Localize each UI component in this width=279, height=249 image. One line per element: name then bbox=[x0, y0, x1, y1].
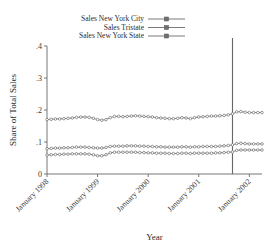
series-marker-1 bbox=[248, 143, 251, 146]
series-marker-1 bbox=[63, 146, 66, 149]
series-marker-1 bbox=[75, 146, 78, 149]
legend-marker-0 bbox=[165, 17, 169, 21]
series-marker-2 bbox=[113, 151, 116, 154]
series-marker-0 bbox=[206, 115, 209, 118]
series-marker-2 bbox=[63, 153, 66, 156]
series-marker-0 bbox=[210, 115, 213, 118]
series-marker-2 bbox=[256, 149, 259, 152]
series-marker-1 bbox=[46, 147, 49, 150]
series-marker-0 bbox=[227, 114, 230, 117]
y-tick-label: .3 bbox=[36, 74, 42, 83]
series-marker-2 bbox=[84, 153, 87, 156]
series-marker-1 bbox=[138, 145, 141, 148]
series-marker-1 bbox=[126, 145, 129, 148]
series-marker-2 bbox=[202, 152, 205, 155]
series-marker-0 bbox=[143, 115, 146, 118]
series-marker-0 bbox=[63, 117, 66, 120]
series-marker-0 bbox=[138, 115, 141, 118]
series-marker-0 bbox=[54, 118, 57, 121]
x-axis-title: Year bbox=[146, 232, 163, 242]
series-marker-0 bbox=[130, 115, 133, 118]
y-tick-label: 0 bbox=[38, 170, 42, 179]
series-marker-2 bbox=[147, 152, 150, 155]
series-marker-2 bbox=[96, 154, 99, 157]
series-marker-0 bbox=[147, 115, 150, 118]
series-marker-0 bbox=[58, 118, 61, 121]
series-marker-2 bbox=[164, 152, 167, 155]
series-marker-0 bbox=[231, 113, 234, 116]
series-marker-2 bbox=[109, 152, 112, 155]
series-marker-2 bbox=[151, 152, 154, 155]
series-marker-1 bbox=[122, 145, 125, 148]
series-marker-0 bbox=[248, 111, 251, 114]
series-marker-2 bbox=[168, 152, 171, 155]
series-marker-1 bbox=[231, 144, 234, 147]
series-marker-0 bbox=[67, 117, 70, 120]
series-marker-1 bbox=[168, 146, 171, 149]
series-marker-1 bbox=[113, 145, 116, 148]
series-marker-0 bbox=[189, 117, 192, 120]
series-marker-2 bbox=[138, 151, 141, 154]
y-tick-label: .1 bbox=[36, 138, 42, 147]
series-marker-0 bbox=[164, 117, 167, 120]
share-of-total-sales-line-chart: 0.1.2.3.4Share of Total SalesJanuary 199… bbox=[0, 0, 279, 249]
series-marker-0 bbox=[176, 117, 179, 120]
series-marker-0 bbox=[193, 116, 196, 119]
series-marker-0 bbox=[219, 114, 222, 117]
series-marker-2 bbox=[189, 152, 192, 155]
series-marker-0 bbox=[105, 118, 108, 121]
series-marker-0 bbox=[214, 115, 217, 118]
series-marker-1 bbox=[223, 145, 226, 148]
series-marker-1 bbox=[219, 145, 222, 148]
series-marker-0 bbox=[88, 116, 91, 119]
series-marker-0 bbox=[172, 117, 175, 120]
series-marker-1 bbox=[109, 145, 112, 148]
series-marker-2 bbox=[214, 152, 217, 155]
y-tick-label: .2 bbox=[36, 106, 42, 115]
series-marker-0 bbox=[71, 117, 74, 120]
series-marker-2 bbox=[101, 154, 104, 157]
series-marker-1 bbox=[130, 145, 133, 148]
series-marker-2 bbox=[181, 152, 184, 155]
series-marker-0 bbox=[117, 115, 120, 118]
series-marker-1 bbox=[101, 147, 104, 150]
series-marker-1 bbox=[256, 143, 259, 146]
series-marker-1 bbox=[151, 145, 154, 148]
series-marker-2 bbox=[50, 154, 53, 157]
series-marker-2 bbox=[105, 154, 108, 157]
series-marker-1 bbox=[67, 146, 70, 149]
series-marker-2 bbox=[79, 153, 82, 156]
series-marker-1 bbox=[155, 146, 158, 149]
series-marker-1 bbox=[172, 146, 175, 149]
series-marker-1 bbox=[134, 145, 137, 148]
series-line-0 bbox=[47, 112, 262, 121]
series-marker-2 bbox=[193, 152, 196, 155]
series-marker-2 bbox=[244, 149, 247, 152]
series-marker-0 bbox=[240, 110, 243, 113]
y-tick-label: .4 bbox=[36, 42, 42, 51]
series-marker-2 bbox=[248, 149, 251, 152]
series-marker-2 bbox=[67, 153, 70, 156]
series-marker-2 bbox=[176, 152, 179, 155]
series-marker-2 bbox=[143, 151, 146, 154]
series-marker-2 bbox=[210, 152, 213, 155]
series-marker-1 bbox=[193, 146, 196, 149]
series-marker-2 bbox=[240, 149, 243, 152]
series-marker-2 bbox=[58, 153, 61, 156]
series-marker-0 bbox=[92, 117, 95, 120]
series-marker-1 bbox=[197, 146, 200, 149]
series-marker-2 bbox=[126, 151, 129, 154]
x-tick-label: January 2000 bbox=[115, 177, 152, 214]
series-marker-0 bbox=[50, 118, 53, 121]
series-marker-1 bbox=[96, 147, 99, 150]
series-marker-2 bbox=[117, 151, 120, 154]
series-marker-0 bbox=[181, 116, 184, 119]
series-marker-1 bbox=[176, 146, 179, 149]
series-marker-1 bbox=[147, 145, 150, 148]
series-marker-1 bbox=[84, 146, 87, 149]
series-marker-1 bbox=[206, 145, 209, 148]
series-marker-2 bbox=[231, 151, 234, 154]
series-marker-0 bbox=[151, 116, 154, 119]
y-axis-title: Share of Total Sales bbox=[8, 74, 18, 146]
series-marker-2 bbox=[75, 153, 78, 156]
